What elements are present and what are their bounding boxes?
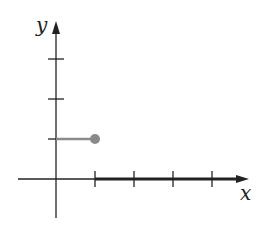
y-axis-arrow-icon xyxy=(52,21,60,34)
step-function-plot: y x xyxy=(0,0,269,235)
closed-endpoint-dot xyxy=(90,134,100,144)
y-axis-label: y xyxy=(35,13,48,37)
x-axis-label: x xyxy=(240,181,251,205)
